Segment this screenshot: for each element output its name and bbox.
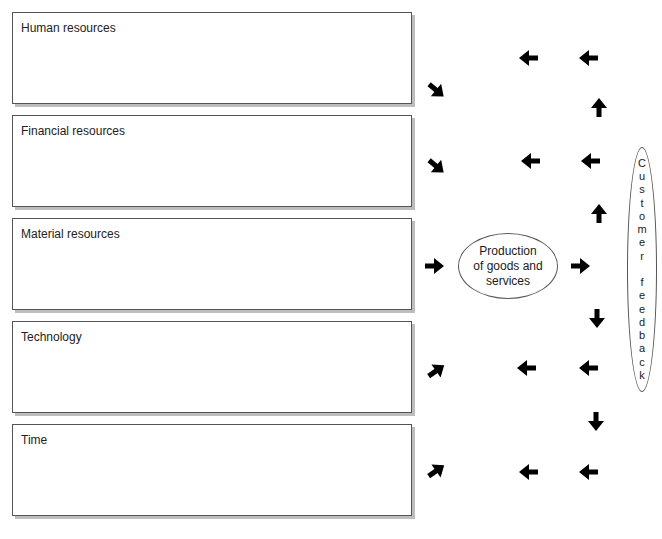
production-line: of goods and bbox=[468, 259, 548, 274]
feedback-letter: e bbox=[639, 289, 645, 302]
feedback-letter: C bbox=[638, 157, 646, 170]
arrow-up-icon bbox=[588, 203, 610, 225]
arrow-up-right-icon bbox=[425, 360, 447, 382]
feedback-letter: d bbox=[639, 316, 645, 329]
production-node: Production of goods and services bbox=[458, 233, 558, 299]
arrow-left-icon bbox=[578, 461, 600, 483]
box-human-resources: Human resources bbox=[12, 12, 412, 104]
box-label: Technology bbox=[21, 330, 82, 344]
feedback-letter: c bbox=[639, 356, 645, 369]
arrow-left-icon bbox=[518, 461, 540, 483]
arrow-left-icon bbox=[578, 47, 600, 69]
box-financial-resources: Financial resources bbox=[12, 115, 412, 207]
arrow-left-icon bbox=[578, 357, 600, 379]
arrow-down-right-icon bbox=[425, 79, 447, 101]
feedback-letter: s bbox=[639, 183, 645, 196]
box-label: Material resources bbox=[21, 227, 120, 241]
feedback-letter: r bbox=[640, 250, 644, 263]
production-label: Production of goods and services bbox=[468, 244, 548, 289]
feedback-letter: o bbox=[639, 210, 645, 223]
arrow-up-icon bbox=[588, 97, 610, 119]
arrow-up-right-icon bbox=[425, 460, 447, 482]
customer-feedback-node: C u s t o m e r f e e d b a c k bbox=[627, 147, 657, 392]
feedback-letter: b bbox=[639, 329, 645, 342]
box-technology: Technology bbox=[12, 321, 412, 413]
feedback-letter: e bbox=[639, 236, 645, 249]
feedback-letter: f bbox=[640, 276, 643, 289]
arrow-left-icon bbox=[516, 357, 538, 379]
arrow-left-icon bbox=[520, 150, 542, 172]
feedback-letter: u bbox=[639, 170, 645, 183]
arrow-down-icon bbox=[586, 307, 608, 329]
feedback-letter: a bbox=[639, 342, 645, 355]
production-line: services bbox=[468, 274, 548, 289]
arrow-right-icon bbox=[423, 255, 445, 277]
arrow-down-right-icon bbox=[425, 155, 447, 177]
arrow-down-icon bbox=[585, 410, 607, 432]
box-time: Time bbox=[12, 424, 412, 516]
box-label: Human resources bbox=[21, 21, 116, 35]
box-label: Time bbox=[21, 433, 47, 447]
feedback-letter: t bbox=[640, 197, 643, 210]
arrow-right-icon bbox=[569, 255, 591, 277]
feedback-letter: e bbox=[639, 303, 645, 316]
feedback-letter: m bbox=[637, 223, 646, 236]
production-line: Production bbox=[468, 244, 548, 259]
box-label: Financial resources bbox=[21, 124, 125, 138]
feedback-letter: k bbox=[639, 369, 645, 382]
arrow-left-icon bbox=[580, 150, 602, 172]
box-material-resources: Material resources bbox=[12, 218, 412, 310]
arrow-left-icon bbox=[518, 47, 540, 69]
